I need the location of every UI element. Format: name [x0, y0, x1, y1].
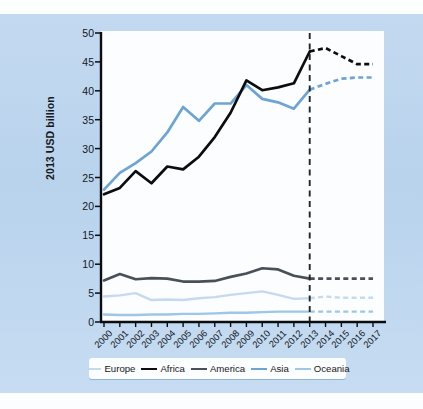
- chart-axes: [0, 0, 423, 409]
- legend-swatch-oceania-icon: [295, 368, 311, 370]
- screenshot-root: 2013 USD billion 05101520253035404550 20…: [0, 0, 423, 409]
- legend-swatch-asia-icon: [251, 368, 267, 370]
- legend-label: America: [210, 364, 245, 374]
- legend-item-africa[interactable]: Africa: [141, 364, 185, 374]
- legend-label: Oceania: [314, 364, 350, 374]
- legend-item-oceania[interactable]: Oceania: [295, 364, 350, 374]
- legend-item-asia[interactable]: Asia: [251, 364, 289, 374]
- legend-label: Africa: [160, 364, 185, 374]
- legend-swatch-europe-icon: [85, 368, 101, 370]
- legend-label: Asia: [270, 364, 289, 374]
- legend-label: Europe: [104, 364, 135, 374]
- legend-item-america[interactable]: America: [191, 364, 245, 374]
- legend-item-europe[interactable]: Europe: [85, 364, 135, 374]
- legend-swatch-america-icon: [191, 368, 207, 370]
- legend-swatch-africa-icon: [141, 368, 157, 370]
- chart-legend: EuropeAfricaAmericaAsiaOceania: [89, 358, 346, 379]
